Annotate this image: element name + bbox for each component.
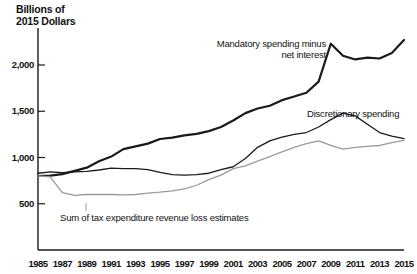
- x-tick-label: 1995: [147, 258, 173, 269]
- x-tick-label: 2001: [220, 258, 246, 269]
- x-tick-label: 2005: [269, 258, 295, 269]
- x-tick-label: 1999: [196, 258, 222, 269]
- x-tick-label: 2009: [318, 258, 344, 269]
- y-tick-label: 500: [0, 198, 34, 209]
- x-tick-label: 2011: [342, 258, 368, 269]
- y-tick-marks: [38, 65, 45, 204]
- series-line-2: [38, 140, 404, 195]
- x-tick-label: 1993: [123, 258, 149, 269]
- annotation-tax-expenditure: Sum of tax expenditure revenue loss esti…: [60, 212, 249, 223]
- annotation-mandatory-spending: Mandatory spending minus net interest: [206, 38, 326, 60]
- annotation-discretionary-spending: Discretionary spending: [307, 108, 399, 119]
- x-tick-label: 1997: [171, 258, 197, 269]
- y-tick-label: 1,500: [0, 105, 34, 116]
- series-line-1: [38, 113, 404, 175]
- x-tick-label: 2003: [245, 258, 271, 269]
- x-tick-label: 1991: [98, 258, 124, 269]
- x-tick-label: 2015: [391, 258, 417, 269]
- x-tick-label: 2007: [293, 258, 319, 269]
- x-tick-label: 1985: [25, 258, 51, 269]
- x-tick-label: 2013: [367, 258, 393, 269]
- y-tick-label: 2,000: [0, 59, 34, 70]
- y-tick-label: 1,000: [0, 152, 34, 163]
- x-tick-label: 1987: [49, 258, 75, 269]
- x-tick-label: 1989: [74, 258, 100, 269]
